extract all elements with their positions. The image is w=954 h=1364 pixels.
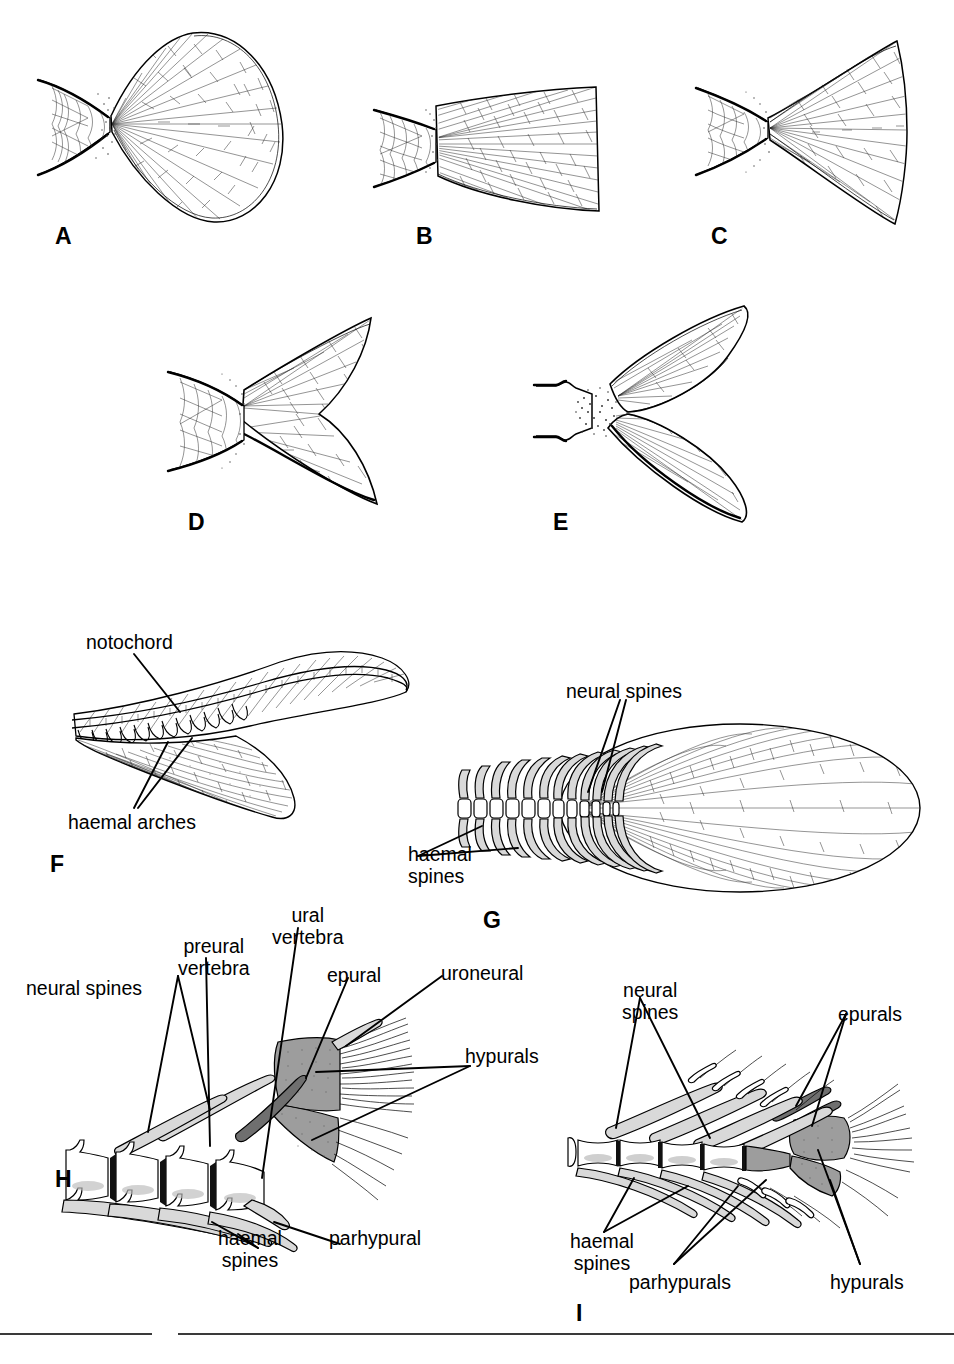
annotation-ural-line1-H: ural <box>272 905 344 927</box>
panel-letter-G: G <box>483 909 501 932</box>
annotation-parhypural-H: parhypural <box>329 1228 421 1250</box>
annotation-hypurals-I: hypurals <box>830 1272 904 1294</box>
footer-rule-right <box>178 1333 954 1335</box>
annotation-haemal-line2-I: spines <box>570 1253 634 1275</box>
annotation-hypurals-H: hypurals <box>465 1046 539 1068</box>
epichordal-lobe-F <box>74 652 409 740</box>
annotation-neural-line1-I: neural <box>622 980 678 1002</box>
fin-outline-D <box>242 318 377 504</box>
fin-outline-B <box>436 87 599 211</box>
leader-neural-spines-2-H <box>148 976 178 1132</box>
annotation-uroneural-H: uroneural <box>441 963 523 985</box>
annotation-preural-line2-H: vertebra <box>178 958 250 980</box>
panel-E-lunate-caudal-fin <box>522 300 812 530</box>
ural-centrum-I <box>746 1146 790 1171</box>
fin-outline-A <box>111 33 283 222</box>
annotation-preural-vertebra-H: preural vertebra <box>178 936 250 980</box>
annotation-haemal-line2-H: spines <box>218 1250 282 1272</box>
panel-A-rounded-caudal-fin <box>18 18 318 233</box>
panel-letter-E: E <box>553 511 568 534</box>
annotation-haemal-line2-G: spines <box>408 866 472 888</box>
annotation-haemal-G: haemal spines <box>408 844 472 888</box>
annotation-neural-spines-G: neural spines <box>566 681 682 703</box>
annotation-haemal-spines-H: haemal spines <box>218 1228 282 1272</box>
hypochordal-lobe-F <box>76 736 295 818</box>
panel-letter-I: I <box>576 1302 582 1325</box>
annotation-preural-line1-H: preural <box>178 936 250 958</box>
annotation-parhypurals-I: parhypurals <box>629 1272 731 1294</box>
annotation-haemal-line1-G: haemal <box>408 844 472 866</box>
peduncle-outline-A <box>40 80 110 174</box>
panel-letter-B: B <box>416 225 433 248</box>
centra-G <box>458 799 619 818</box>
annotation-notochord-F: notochord <box>86 632 173 654</box>
annotation-ural-line2-H: vertebra <box>272 927 344 949</box>
peduncle-outline-E <box>536 382 592 440</box>
panel-G-diphycercal-skeleton <box>440 700 940 915</box>
annotation-neural-spines-H: neural spines <box>26 978 142 1000</box>
annotation-epural-H: epural <box>327 965 381 987</box>
leader-neural-spines-1-H <box>178 976 210 1110</box>
annotation-neural-spines-I: neural spines <box>622 980 678 1024</box>
annotation-haemal-line1-I: haemal <box>570 1231 634 1253</box>
annotation-haemal-arches-F: haemal arches <box>68 812 196 834</box>
panel-letter-A: A <box>55 225 72 248</box>
annotation-neural-line2-I: spines <box>622 1002 678 1024</box>
panel-D-forked-caudal-fin <box>152 310 422 520</box>
footer-rule-left <box>0 1333 152 1335</box>
annotation-haemal-spines-I: haemal spines <box>570 1231 634 1275</box>
panel-C-emarginate-caudal-fin <box>680 22 948 237</box>
leader-hypurals-2-I <box>830 1180 860 1264</box>
annotation-ural-vertebra-H: ural vertebra <box>272 905 344 949</box>
peduncle-outline-D <box>170 372 244 470</box>
panel-letter-D: D <box>188 511 205 534</box>
panel-H-homocercal-skeleton <box>40 1000 500 1240</box>
fin-outline-C <box>768 41 907 224</box>
annotation-haemal-line1-H: haemal <box>218 1228 282 1250</box>
panel-B-truncate-caudal-fin <box>368 58 648 233</box>
annotation-epurals-I: epurals <box>838 1004 902 1026</box>
panel-letter-C: C <box>711 225 728 248</box>
panel-letter-F: F <box>50 853 64 876</box>
figure-page: notochord haemal arches <box>0 0 954 1364</box>
panel-letter-H: H <box>55 1168 72 1191</box>
fin-ray-bases-I <box>842 1084 914 1216</box>
